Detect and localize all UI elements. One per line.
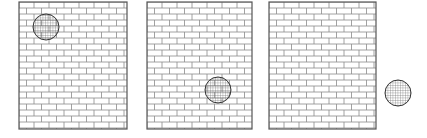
hatched-ball-outside [385,80,411,106]
hatched-ball-2 [205,77,231,103]
brick-wall-3 [269,2,376,129]
brick-wall-ball-diagram [0,0,427,138]
brick-wall-2 [147,2,252,129]
hatched-ball-1 [33,14,59,40]
brick-wall-1 [19,2,127,129]
